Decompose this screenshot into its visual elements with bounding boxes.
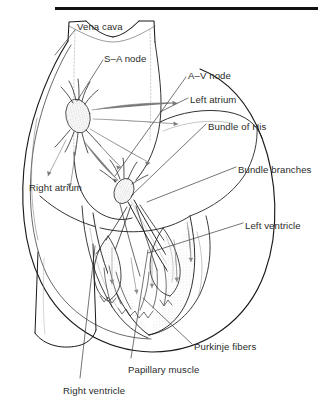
heart-outline [23,41,275,352]
label-papillary-muscle: Papillary muscle [128,364,199,375]
label-bundle-branches: Bundle branches [238,164,312,175]
label-left-atrium: Left atrium [190,94,236,105]
label-sa-node: S–A node [104,53,146,64]
label-purkinje-fibers: Purkinje fibers [194,341,256,352]
label-vena-cava: Vena cava [77,21,123,32]
label-right-ventricle: Right ventricle [63,385,125,396]
figure-page: Vena cava S–A node A–V node Left atrium … [0,0,328,403]
label-bundle-of-his: Bundle of His [208,121,266,132]
label-right-atrium: Right atrium [29,182,82,193]
label-left-ventricle: Left ventricle [245,220,301,231]
label-av-node: A–V node [188,70,231,81]
heart-conduction-diagram [0,0,328,403]
